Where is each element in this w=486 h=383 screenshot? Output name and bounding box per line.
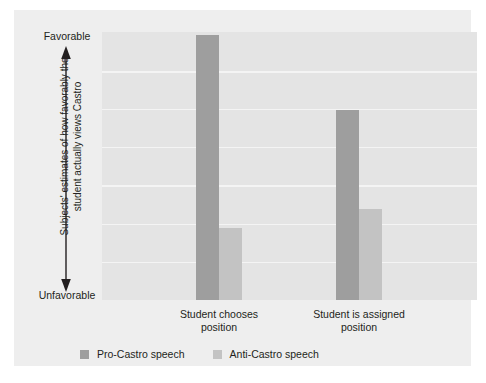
x-axis-category-label-line: position [201, 321, 237, 333]
gridline [102, 71, 477, 73]
gridline [102, 109, 477, 111]
legend-entry: Pro-Castro speech [80, 348, 185, 360]
figure-card: Favorable Subjects' estimates of how fav… [14, 10, 471, 366]
legend-swatch [80, 350, 89, 359]
legend-swatch [213, 350, 222, 359]
bar [359, 209, 382, 300]
legend-label: Pro-Castro speech [97, 348, 185, 360]
gridline [102, 224, 477, 226]
x-axis-category-label: Student is assignedposition [284, 308, 434, 333]
legend-label: Anti-Castro speech [230, 348, 319, 360]
bar [336, 110, 359, 300]
gridline [102, 262, 477, 264]
x-axis-category-label: Student choosesposition [144, 308, 294, 333]
x-axis-category-label-line: Student is assigned [313, 308, 405, 320]
plot-area [102, 32, 477, 300]
y-axis-top-label: Favorable [28, 30, 106, 42]
chart-legend: Pro-Castro speechAnti-Castro speech [80, 348, 319, 360]
y-axis-bottom-label: Unfavorable [28, 289, 106, 301]
x-axis-category-label-line: Student chooses [180, 308, 258, 320]
gridline [102, 185, 477, 187]
bar [196, 35, 219, 300]
x-axis-category-label-line: position [341, 321, 377, 333]
gridline [102, 147, 477, 149]
y-axis-title: Subjects' estimates of how favorably the… [59, 52, 84, 242]
bar [219, 228, 242, 300]
legend-entry: Anti-Castro speech [213, 348, 319, 360]
y-axis: Favorable Subjects' estimates of how fav… [28, 22, 106, 312]
